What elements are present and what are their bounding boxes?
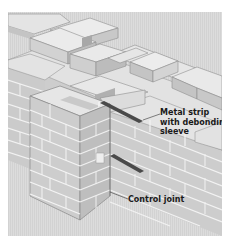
metal-strip-label-line2: with debonding <box>160 118 222 128</box>
diagram-frame: Metal strip with debonding sleeve Contro… <box>8 12 222 236</box>
control-joint-label: Control joint <box>128 195 184 205</box>
metal-strip-label-line1: Metal strip <box>160 108 222 118</box>
metal-strip-label-line3: sleeve <box>160 127 222 137</box>
metal-strip-label: Metal strip with debonding sleeve <box>160 108 222 137</box>
